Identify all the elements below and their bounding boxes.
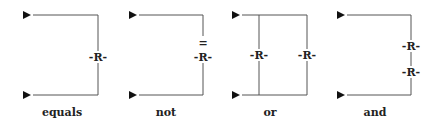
panel-or: -R- -R- or [232, 11, 316, 119]
relation-label: -R- [194, 51, 212, 64]
panel-equals: -R- equals [23, 11, 107, 119]
panel-label-or: or [263, 106, 276, 119]
arrow-icon [129, 91, 137, 99]
arrow-icon [23, 11, 31, 19]
relation-label: -R- [402, 66, 420, 79]
panel-label-and: and [364, 106, 387, 119]
arrow-icon [337, 91, 345, 99]
arrow-icon [232, 91, 240, 99]
relation-label: -R- [402, 40, 420, 53]
panel-label-not: not [156, 106, 177, 119]
relation-label: -R- [250, 49, 268, 62]
relation-label: -R- [89, 51, 107, 64]
panel-label-equals: equals [42, 106, 82, 119]
arrow-icon [337, 11, 345, 19]
relation-label: -R- [298, 49, 316, 62]
panel-not: = -R- not [129, 11, 212, 119]
arrow-icon [232, 11, 240, 19]
panel-and: -R- -R- and [337, 11, 420, 119]
arrow-icon [129, 11, 137, 19]
negation-marker: = [198, 37, 207, 50]
arrow-icon [23, 91, 31, 99]
relation-diagram: -R- equals = -R- not -R- -R- or -R- -R- … [0, 0, 441, 125]
